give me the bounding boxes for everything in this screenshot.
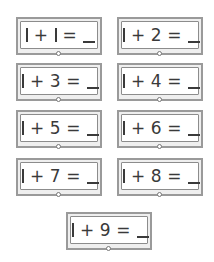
digit-one <box>123 121 125 135</box>
digit-one <box>123 28 125 42</box>
flash-card-1-plus-3: + 3 = <box>16 63 102 101</box>
plus-sign: + <box>34 27 49 44</box>
equation: + = <box>23 27 96 44</box>
answer-blank <box>188 134 200 136</box>
hole-icon <box>157 192 162 197</box>
equation: + 3 = <box>19 73 99 90</box>
equation: + 7 = <box>19 168 99 185</box>
equation: + 8 = <box>120 168 200 185</box>
equals-sign: = <box>66 73 81 90</box>
flash-card-1-plus-6: + 6 = <box>117 110 203 148</box>
card-inner-frame: + 8 = <box>121 162 199 190</box>
digit-one <box>22 169 24 183</box>
equals-sign: = <box>66 120 81 137</box>
plus-sign: + <box>30 168 45 185</box>
card-inner-frame: + 2 = <box>121 21 199 49</box>
card-inner-frame: + 5 = <box>20 114 98 142</box>
second-number: 7 <box>50 168 61 185</box>
card-inner-frame: + 6 = <box>121 114 199 142</box>
second-number: 4 <box>151 73 162 90</box>
answer-blank <box>83 41 95 43</box>
card-inner-frame: + 7 = <box>20 162 98 190</box>
plus-sign: + <box>131 73 146 90</box>
flash-card-1-plus-1: + = <box>16 17 102 55</box>
answer-blank <box>188 87 200 89</box>
answer-blank <box>188 182 200 184</box>
plus-sign: + <box>131 27 146 44</box>
answer-blank <box>87 87 99 89</box>
digit-one <box>22 121 24 135</box>
second-number: 5 <box>50 120 61 137</box>
equation: + 2 = <box>120 27 200 44</box>
equation: + 5 = <box>19 120 99 137</box>
flash-card-1-plus-9: + 9 = <box>66 212 152 250</box>
digit-one <box>55 28 57 42</box>
plus-sign: + <box>80 222 95 239</box>
second-number: 8 <box>151 168 162 185</box>
hole-icon <box>157 97 162 102</box>
equals-sign: = <box>167 168 182 185</box>
equation: + 4 = <box>120 73 200 90</box>
second-number: 9 <box>100 222 111 239</box>
answer-blank <box>137 236 149 238</box>
plus-sign: + <box>30 73 45 90</box>
equals-sign: = <box>116 222 131 239</box>
hole-icon <box>157 144 162 149</box>
card-inner-frame: + 4 = <box>121 67 199 95</box>
plus-sign: + <box>30 120 45 137</box>
equals-sign: = <box>66 168 81 185</box>
equals-sign: = <box>167 120 182 137</box>
equation: + 9 = <box>69 222 149 239</box>
second-number: 2 <box>151 27 162 44</box>
card-inner-frame: + 3 = <box>20 67 98 95</box>
answer-blank <box>87 182 99 184</box>
flash-card-1-plus-4: + 4 = <box>117 63 203 101</box>
card-inner-frame: + = <box>20 21 98 49</box>
second-number: 3 <box>50 73 61 90</box>
hole-icon <box>56 192 61 197</box>
card-inner-frame: + 9 = <box>70 216 148 244</box>
digit-one <box>123 169 125 183</box>
equals-sign: = <box>167 27 182 44</box>
answer-blank <box>188 41 200 43</box>
digit-one <box>72 223 74 237</box>
hole-icon <box>56 97 61 102</box>
answer-blank <box>87 134 99 136</box>
equals-sign: = <box>167 73 182 90</box>
digit-one <box>123 74 125 88</box>
flash-card-1-plus-8: + 8 = <box>117 158 203 196</box>
plus-sign: + <box>131 120 146 137</box>
hole-icon <box>157 51 162 56</box>
flash-card-1-plus-2: + 2 = <box>117 17 203 55</box>
hole-icon <box>56 144 61 149</box>
flash-card-1-plus-5: + 5 = <box>16 110 102 148</box>
hole-icon <box>56 51 61 56</box>
equals-sign: = <box>63 27 78 44</box>
digit-one <box>26 28 28 42</box>
equation: + 6 = <box>120 120 200 137</box>
flash-card-1-plus-7: + 7 = <box>16 158 102 196</box>
hole-icon <box>106 246 111 251</box>
plus-sign: + <box>131 168 146 185</box>
second-number: 6 <box>151 120 162 137</box>
digit-one <box>22 74 24 88</box>
